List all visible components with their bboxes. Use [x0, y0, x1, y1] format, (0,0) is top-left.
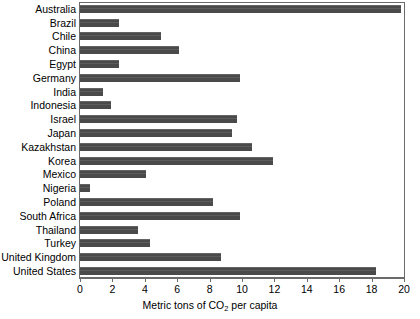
category-label-thailand: Thailand [36, 224, 76, 235]
x-tick-label-12: 12 [269, 283, 281, 295]
bar-turkey [80, 239, 150, 247]
x-tick-label-10: 10 [236, 283, 248, 295]
category-label-india: India [53, 86, 76, 97]
category-label-israel: Israel [50, 114, 76, 125]
x-tick-label-16: 16 [333, 283, 345, 295]
bar-australia [80, 5, 401, 13]
x-tick-label-14: 14 [301, 283, 313, 295]
x-tick-mark-8 [210, 278, 211, 282]
bar-row: United States [0, 264, 420, 278]
x-tick-mark-20 [404, 278, 405, 282]
x-tick-mark-16 [339, 278, 340, 282]
bar-row: India [0, 85, 420, 99]
x-tick-label-6: 6 [174, 283, 180, 295]
bar-row: Australia [0, 2, 420, 16]
x-tick-label-8: 8 [207, 283, 213, 295]
x-axis-title-after: per capita [228, 299, 277, 311]
bar-chile [80, 32, 161, 40]
x-tick-mark-2 [112, 278, 113, 282]
x-tick-mark-18 [372, 278, 373, 282]
bar-israel [80, 115, 237, 123]
bar-germany [80, 74, 240, 82]
x-axis-title-subscript: 2 [224, 304, 228, 313]
category-label-united-kingdom: United Kingdom [1, 252, 76, 263]
category-label-brazil: Brazil [50, 17, 76, 28]
bar-row: Thailand [0, 223, 420, 237]
category-label-nigeria: Nigeria [43, 183, 76, 194]
bar-row: Israel [0, 112, 420, 126]
x-tick-mark-10 [242, 278, 243, 282]
category-label-japan: Japan [47, 128, 76, 139]
x-tick-mark-14 [307, 278, 308, 282]
bar-egypt [80, 60, 119, 68]
category-label-korea: Korea [48, 155, 76, 166]
bar-kazakhstan [80, 143, 252, 151]
bar-indonesia [80, 101, 111, 109]
bar-china [80, 46, 179, 54]
category-label-china: China [49, 45, 76, 56]
bar-korea [80, 157, 273, 165]
bar-nigeria [80, 184, 90, 192]
bar-row: South Africa [0, 209, 420, 223]
bar-united-kingdom [80, 253, 221, 261]
bar-united-states [80, 267, 376, 275]
bar-row: Brazil [0, 16, 420, 30]
bar-row: Germany [0, 71, 420, 85]
bar-row: Indonesia [0, 99, 420, 113]
x-tick-mark-6 [177, 278, 178, 282]
bar-japan [80, 129, 232, 137]
category-label-south-africa: South Africa [19, 210, 76, 221]
bar-row: Japan [0, 126, 420, 140]
category-label-chile: Chile [52, 31, 76, 42]
x-axis-title-before: Metric tons of CO [143, 299, 225, 311]
bar-india [80, 88, 103, 96]
bar-row: Egypt [0, 57, 420, 71]
category-label-turkey: Turkey [44, 238, 76, 249]
x-tick-label-20: 20 [398, 283, 410, 295]
bar-thailand [80, 226, 138, 234]
bar-row: Chile [0, 30, 420, 44]
category-label-united-states: United States [13, 266, 76, 277]
bar-mexico [80, 170, 146, 178]
category-label-poland: Poland [43, 197, 76, 208]
x-tick-label-4: 4 [142, 283, 148, 295]
bar-row: Turkey [0, 237, 420, 251]
category-label-mexico: Mexico [43, 169, 76, 180]
x-tick-mark-12 [274, 278, 275, 282]
bar-brazil [80, 19, 119, 27]
bar-south-africa [80, 212, 240, 220]
x-tick-mark-0 [80, 278, 81, 282]
category-label-germany: Germany [33, 72, 76, 83]
x-tick-label-0: 0 [77, 283, 83, 295]
bar-row: China [0, 43, 420, 57]
x-tick-label-18: 18 [366, 283, 378, 295]
bar-row: Korea [0, 154, 420, 168]
category-label-australia: Australia [35, 3, 76, 14]
category-label-indonesia: Indonesia [30, 100, 76, 111]
bar-rows-container: AustraliaBrazilChileChinaEgyptGermanyInd… [0, 2, 420, 278]
co2-per-capita-bar-chart: AustraliaBrazilChileChinaEgyptGermanyInd… [0, 0, 420, 319]
bar-row: Poland [0, 195, 420, 209]
category-label-egypt: Egypt [49, 59, 76, 70]
bar-row: Kazakhstan [0, 140, 420, 154]
category-label-kazakhstan: Kazakhstan [21, 141, 76, 152]
x-tick-label-2: 2 [109, 283, 115, 295]
bar-row: Mexico [0, 168, 420, 182]
bar-row: Nigeria [0, 181, 420, 195]
bar-poland [80, 198, 213, 206]
bar-row: United Kingdom [0, 250, 420, 264]
x-tick-mark-4 [145, 278, 146, 282]
x-axis-title: Metric tons of CO2 per capita [0, 299, 420, 312]
